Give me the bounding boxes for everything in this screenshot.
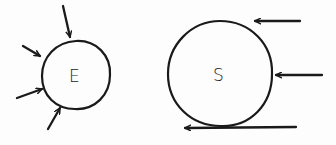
label-e: E: [69, 66, 80, 86]
node-e: E: [42, 41, 110, 109]
arrow-icon: [185, 127, 296, 128]
label-s: S: [213, 65, 224, 85]
arrow-icon: [63, 6, 70, 37]
diagram-canvas: E S: [0, 0, 336, 145]
arrows-into-s: [185, 21, 322, 128]
arrow-icon: [23, 46, 40, 56]
diagram-svg: E S: [0, 0, 336, 145]
arrow-icon: [48, 108, 60, 129]
node-s: S: [168, 21, 272, 126]
arrow-icon: [17, 89, 42, 98]
